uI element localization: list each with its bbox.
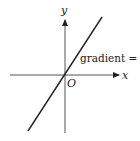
origin-label: O: [67, 77, 76, 90]
gradient-annotation: gradient = 5: [80, 52, 140, 64]
y-axis-label: y: [60, 4, 68, 17]
x-axis-label: x: [122, 69, 129, 82]
gradient-diagram: y x O gradient = 5: [0, 0, 140, 141]
